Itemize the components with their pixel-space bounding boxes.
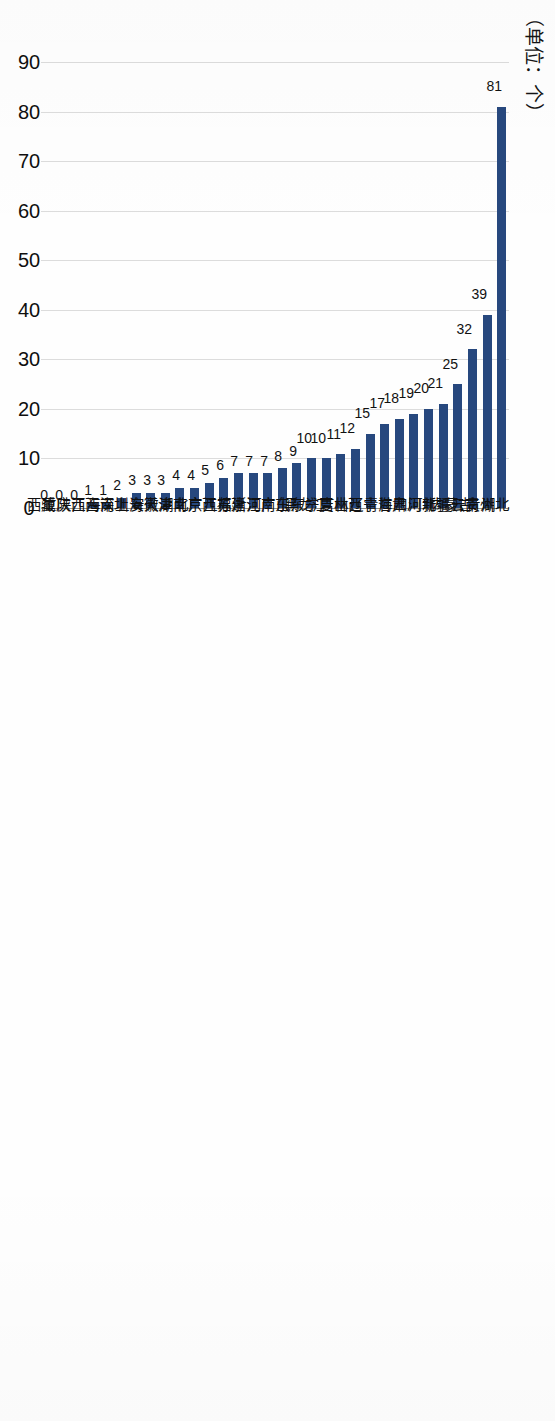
bar-row: 8 [278, 62, 287, 508]
category-axis-labels: 湖北贵州云南内蒙古新疆河北四川甘肃青海辽宁山西吉林宁夏黑龙江山东广东河南浙江福建… [41, 508, 509, 554]
bar-row: 0 [73, 62, 82, 508]
bar-chart-figure: （单位：个） 813932252120191817151211101098777… [0, 0, 555, 1421]
bar-row: 0 [44, 62, 53, 508]
bar-row: 15 [366, 62, 375, 508]
bar-row: 10 [307, 62, 316, 508]
value-tick-label: 10 [18, 448, 40, 468]
bar [424, 409, 433, 508]
bar-value-label: 1 [84, 483, 92, 497]
bar-row: 7 [263, 62, 272, 508]
value-tick-label: 70 [18, 151, 40, 171]
bar-value-label: 6 [216, 458, 224, 472]
bar-row: 39 [483, 62, 492, 508]
bar-row: 7 [249, 62, 258, 508]
bar-row: 10 [322, 62, 331, 508]
bar-row: 3 [161, 62, 170, 508]
bar-row: 2 [117, 62, 126, 508]
bar-value-label: 7 [260, 454, 268, 468]
value-tick-label: 0 [23, 498, 34, 518]
value-axis-labels: 0102030405060708090 [1, 0, 41, 555]
bar-row: 0 [58, 62, 67, 508]
value-tick-label: 30 [18, 349, 40, 369]
bar-value-label: 5 [201, 463, 209, 477]
bar-row: 6 [219, 62, 228, 508]
value-tick-label: 80 [18, 102, 40, 122]
bar-row: 3 [132, 62, 141, 508]
bar-value-label: 9 [289, 444, 297, 458]
bar-row: 18 [395, 62, 404, 508]
bar-value-label: 2 [114, 478, 122, 492]
bar-row: 17 [380, 62, 389, 508]
bar [380, 424, 389, 508]
bar-value-label: 3 [143, 473, 151, 487]
bar-value-label: 4 [172, 468, 180, 482]
bar-row: 1 [102, 62, 111, 508]
bar [453, 384, 462, 508]
bar-value-label: 7 [231, 454, 239, 468]
bar-row: 7 [234, 62, 243, 508]
bar-row: 1 [88, 62, 97, 508]
bar-value-label: 7 [245, 454, 253, 468]
bar-row: 11 [336, 62, 345, 508]
bar-value-label: 3 [128, 473, 136, 487]
value-tick-label: 40 [18, 300, 40, 320]
bar [439, 404, 448, 508]
bar-row: 21 [439, 62, 448, 508]
bar [468, 349, 477, 508]
bar-row: 81 [497, 62, 506, 508]
bar-value-label: 3 [158, 473, 166, 487]
bar [409, 414, 418, 508]
bar [395, 419, 404, 508]
bar-row: 5 [205, 62, 214, 508]
bar-row: 20 [424, 62, 433, 508]
value-tick-label: 60 [18, 201, 40, 221]
bar-row: 25 [453, 62, 462, 508]
value-tick-label: 20 [18, 399, 40, 419]
bar-value-label: 4 [187, 468, 195, 482]
bar-row: 12 [351, 62, 360, 508]
value-tick-label: 50 [18, 250, 40, 270]
bar-series: 8139322521201918171512111010987776544333… [41, 62, 509, 508]
bar-row: 32 [468, 62, 477, 508]
bar-value-label: 1 [99, 483, 107, 497]
bar-row: 4 [190, 62, 199, 508]
value-tick-label: 90 [18, 52, 40, 72]
bar-row: 9 [292, 62, 301, 508]
plot-area: 8139322521201918171512111010987776544333… [41, 62, 509, 508]
bar-value-label: 8 [275, 449, 283, 463]
bar-row: 4 [175, 62, 184, 508]
bar [497, 107, 506, 508]
bar-row: 19 [409, 62, 418, 508]
bar [483, 315, 492, 508]
bar-row: 3 [146, 62, 155, 508]
unit-caption: （单位：个） [522, 8, 549, 122]
rotated-figure-canvas: （单位：个） 813932252120191817151211101098777… [0, 0, 555, 1421]
